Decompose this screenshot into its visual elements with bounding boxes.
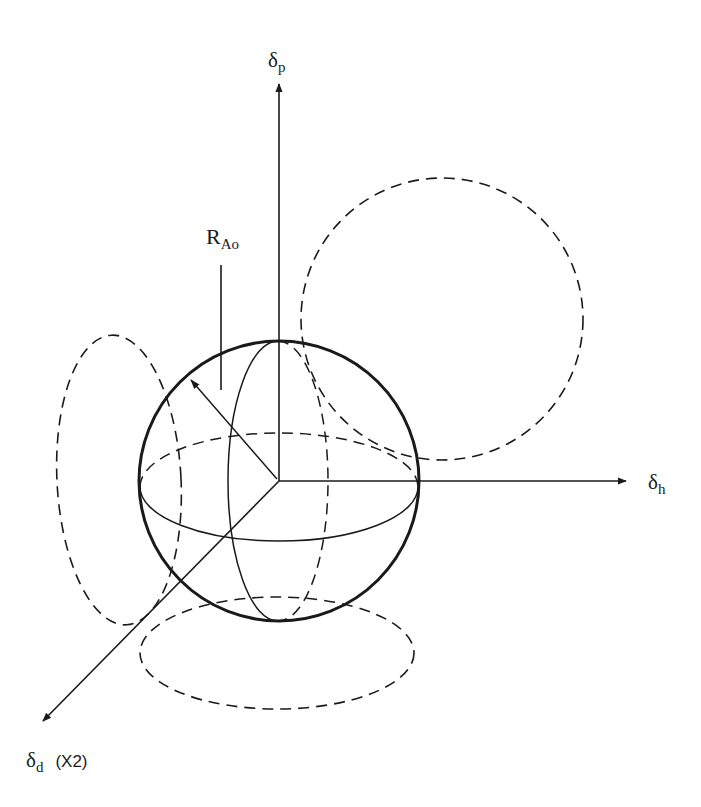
delta-h-symbol: δ xyxy=(648,470,658,494)
sphere-meridian-front xyxy=(228,341,278,621)
solubility-sphere-figure: δp RAo δh δd(X2) xyxy=(0,0,701,807)
delta-h-subscript: h xyxy=(658,481,666,497)
delta-d-symbol: δ xyxy=(26,748,36,772)
label-delta-h: δh xyxy=(648,472,665,497)
projection-circle-ph-plane xyxy=(301,178,583,460)
projection-ellipse-pd-plane xyxy=(49,332,188,628)
delta-d-scale-note: (X2) xyxy=(55,752,87,771)
radius-subscript: Ao xyxy=(221,236,239,252)
delta-p-subscript: p xyxy=(278,59,286,75)
diagram-canvas xyxy=(0,0,701,807)
axis-delta-d xyxy=(43,481,279,721)
label-delta-d: δd(X2) xyxy=(26,750,88,775)
radius-arrow xyxy=(191,380,277,479)
delta-d-subscript: d xyxy=(36,759,44,775)
delta-p-symbol: δ xyxy=(268,48,278,72)
projection-ellipse-hd-plane xyxy=(140,597,414,709)
label-radius: RAo xyxy=(206,226,239,252)
label-delta-p: δp xyxy=(268,50,285,75)
radius-symbol: R xyxy=(206,224,221,249)
